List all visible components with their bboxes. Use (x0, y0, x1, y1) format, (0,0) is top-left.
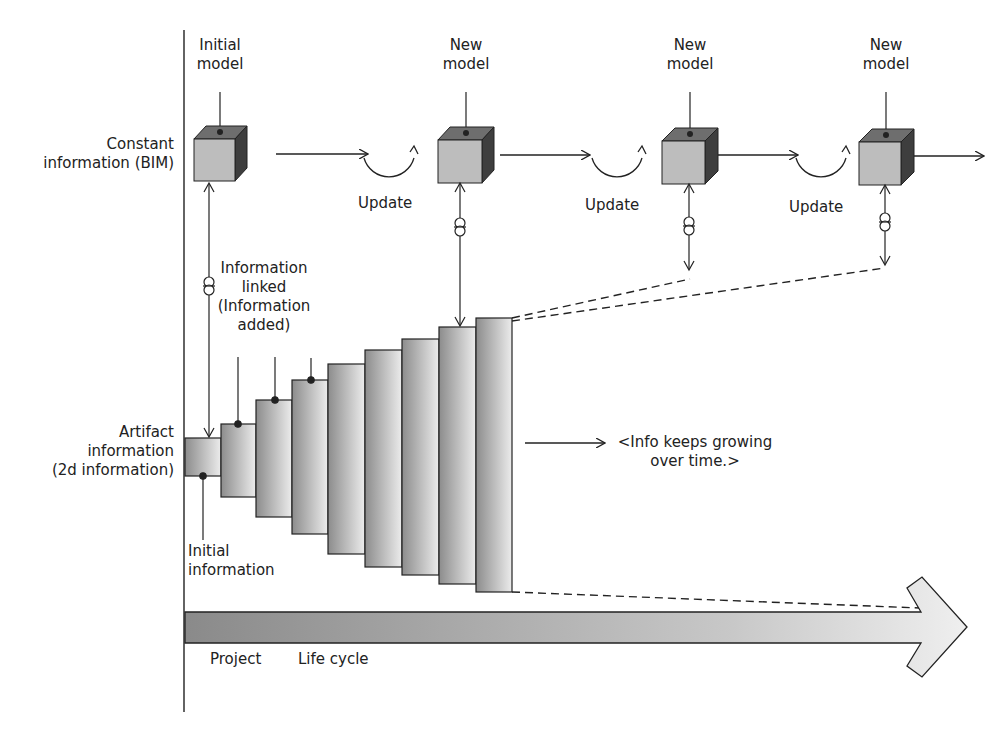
dashed-line-upper-1 (512, 279, 690, 318)
dashed-line-upper-2 (512, 268, 885, 321)
dashed-line-lower (512, 592, 920, 608)
bar-4 (292, 380, 328, 534)
link-arrow-3 (683, 184, 695, 270)
cube-icon-initial-model (194, 92, 247, 181)
initial-info-pointer (200, 473, 206, 540)
cube-icon-new-model-2 (662, 92, 718, 184)
bar-9 (476, 318, 512, 592)
annotation-growing: <Info keeps growing over time.> (610, 433, 780, 471)
bar-3 (256, 400, 292, 517)
timeline-label-lifecycle: Life cycle (298, 650, 369, 669)
row-label-constant: Constant information (BIM) (30, 135, 174, 173)
bar-5 (328, 364, 365, 554)
model-label-new-3: New model (846, 36, 926, 74)
annotation-info-linked: Information linked (Information added) (214, 259, 314, 335)
model-label-new-1: New model (426, 36, 506, 74)
bar-6 (365, 350, 402, 567)
row-label-artifact: Artifact information (2d information) (20, 423, 174, 480)
diagram-canvas: Constant information (BIM) Artifact info… (0, 0, 1004, 738)
bar-8 (439, 327, 476, 584)
bar-7 (402, 339, 439, 575)
model-label-new-2: New model (650, 36, 730, 74)
update-cycle-icon-1 (364, 146, 418, 177)
annotation-initial-info: Initial information (188, 542, 275, 580)
update-cycle-icon-3 (796, 146, 850, 177)
update-cycle-icon-2 (592, 146, 646, 177)
model-label-initial: Initial model (180, 36, 260, 74)
bar-2 (221, 424, 256, 497)
update-label-3: Update (789, 198, 843, 217)
update-label-2: Update (585, 196, 639, 215)
link-arrow-4 (879, 185, 891, 265)
bar-1 (185, 438, 221, 476)
cube-icon-new-model-3 (859, 92, 914, 185)
link-arrow-2 (454, 183, 466, 326)
diagram-svg (0, 0, 1004, 738)
update-label-1: Update (358, 194, 412, 213)
timeline-label-project: Project (210, 650, 261, 669)
cube-icon-new-model-1 (438, 92, 494, 183)
